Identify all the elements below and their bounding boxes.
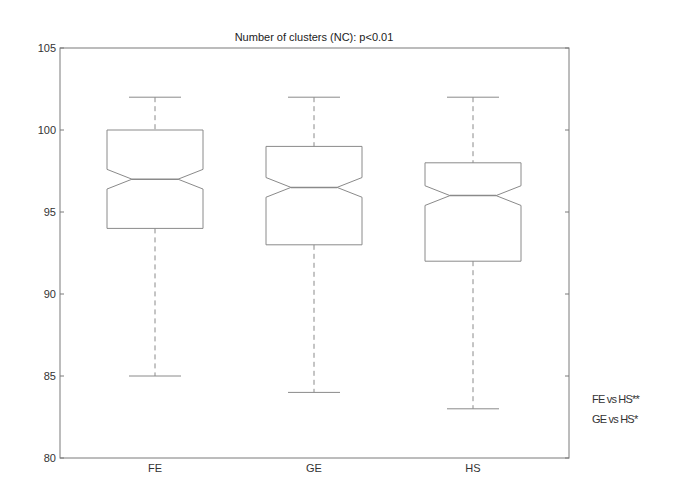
y-tick-label: 100 xyxy=(38,124,56,136)
annotation-fe-vs-hs: FE vs HS** xyxy=(592,393,639,405)
chart-title: Number of clusters (NC): p<0.01 xyxy=(235,31,394,43)
box-group xyxy=(107,97,521,409)
x-label-hs: HS xyxy=(465,462,480,474)
annotation-ge-vs-hs: GE vs HS* xyxy=(592,413,637,425)
y-tick-label: 85 xyxy=(44,370,56,382)
notched-box xyxy=(425,163,521,261)
y-tick-label: 105 xyxy=(38,42,56,54)
boxplot-chart: 80859095100105 FEGEHS Number of clusters… xyxy=(0,0,690,498)
y-tick-label: 80 xyxy=(44,452,56,464)
notched-box xyxy=(266,146,362,244)
box-fe xyxy=(107,97,203,376)
x-axis-labels: FEGEHS xyxy=(148,462,481,474)
y-axis-ticks: 80859095100105 xyxy=(38,42,569,464)
box-hs xyxy=(425,97,521,409)
x-label-fe: FE xyxy=(148,462,162,474)
x-label-ge: GE xyxy=(306,462,322,474)
box-ge xyxy=(266,97,362,392)
y-tick-label: 95 xyxy=(44,206,56,218)
y-tick-label: 90 xyxy=(44,288,56,300)
